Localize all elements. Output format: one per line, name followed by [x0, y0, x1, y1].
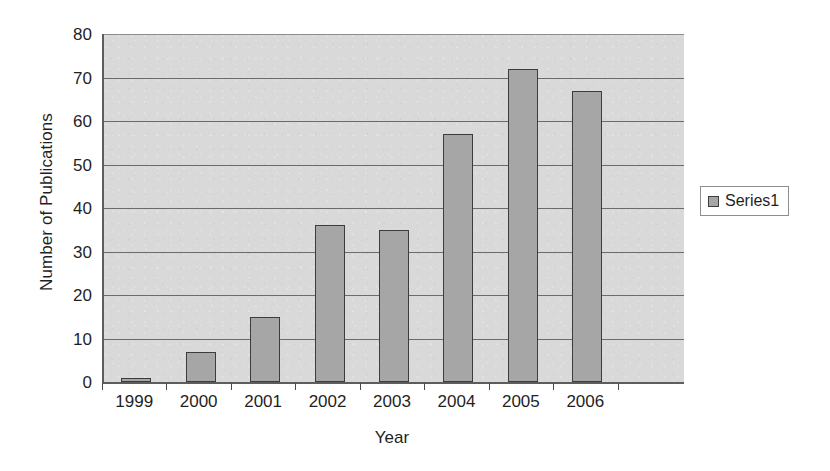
x-tick-label: 2003: [373, 392, 411, 412]
bar: [250, 317, 280, 382]
legend-entry-label: Series1: [725, 192, 779, 210]
x-axis-title: Year: [102, 428, 682, 448]
x-axis-tick-marks: [102, 383, 684, 391]
bar: [379, 230, 409, 382]
y-tick-label: 10: [52, 330, 92, 347]
bar: [508, 69, 538, 382]
bar: [572, 91, 602, 382]
x-tick-label: 2004: [438, 392, 476, 412]
x-tick-mark: [553, 383, 554, 390]
y-tick-label: 60: [52, 113, 92, 130]
series-color-swatch-icon: [708, 196, 719, 207]
y-tick-label: 20: [52, 287, 92, 304]
x-tick-label: 1999: [115, 392, 153, 412]
x-tick-label: 2001: [244, 392, 282, 412]
x-tick-label: 2002: [309, 392, 347, 412]
y-tick-label: 30: [52, 243, 92, 260]
y-tick-label: 80: [52, 26, 92, 43]
bar-chart-figure: Number of Publications 01020304050607080…: [0, 0, 830, 471]
x-tick-mark: [295, 383, 296, 390]
bar: [443, 134, 473, 382]
y-tick-label: 0: [52, 374, 92, 391]
y-tick-label: 50: [52, 156, 92, 173]
x-tick-mark: [166, 383, 167, 390]
bar: [315, 225, 345, 382]
x-tick-mark: [618, 383, 619, 390]
bar: [121, 378, 151, 382]
x-tick-mark: [489, 383, 490, 390]
x-tick-mark: [424, 383, 425, 390]
y-tick-label: 40: [52, 200, 92, 217]
bar: [186, 352, 216, 382]
plot-area: [102, 34, 684, 384]
x-tick-label: 2000: [180, 392, 218, 412]
x-tick-mark: [360, 383, 361, 390]
x-axis-tick-labels: 19992000200120022003200420052006: [102, 392, 682, 416]
y-axis-tick-labels: 01020304050607080: [52, 34, 92, 382]
x-tick-mark: [102, 383, 103, 390]
bars-layer: [104, 34, 684, 382]
x-tick-mark: [231, 383, 232, 390]
x-tick-label: 2005: [502, 392, 540, 412]
chart-legend: Series1: [700, 186, 789, 216]
x-tick-label: 2006: [566, 392, 604, 412]
y-tick-label: 70: [52, 69, 92, 86]
